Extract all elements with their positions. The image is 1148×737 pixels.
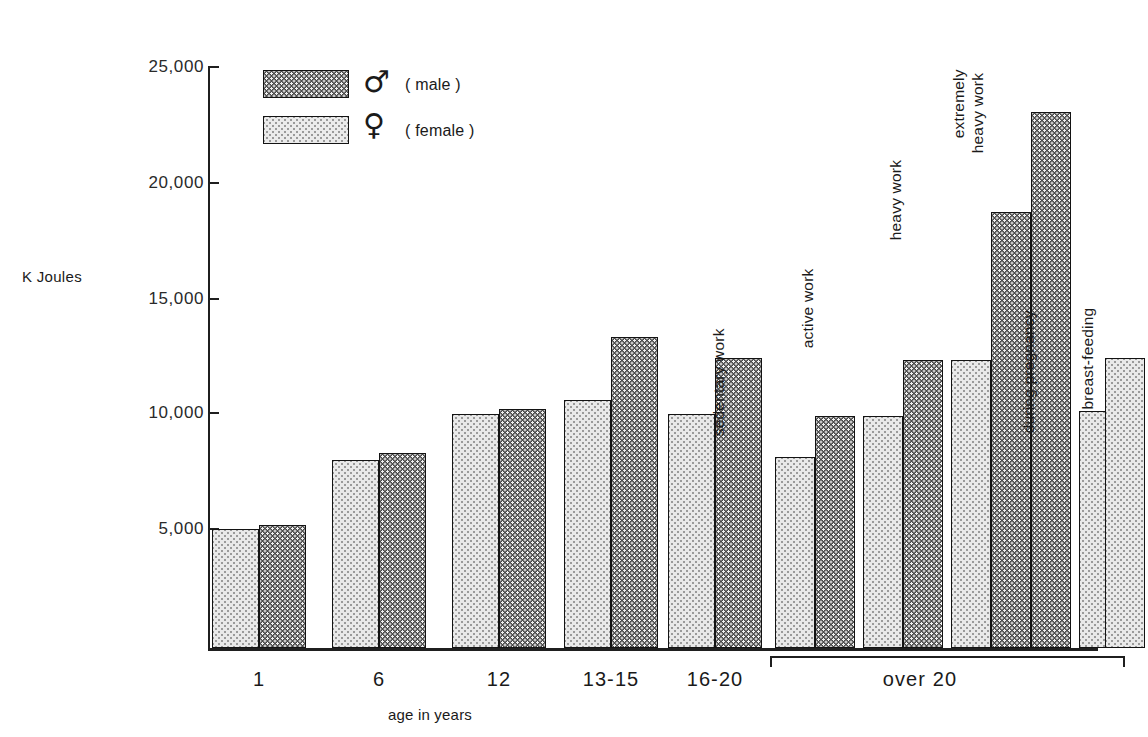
bar-age1-female — [212, 529, 259, 648]
annotation-extremely-heavy-line2: heavy work — [969, 73, 987, 153]
y-tick-label-5000: 5,000 — [84, 519, 204, 539]
legend-swatch-male — [263, 70, 349, 98]
group-label-age-16-20: 16-20 — [665, 668, 765, 691]
legend-swatch-female — [263, 116, 349, 144]
bar-over20-active-female — [863, 416, 903, 648]
group-label-age-6: 6 — [339, 668, 419, 691]
annotation-sedentary-work: sedentary work — [710, 328, 728, 436]
group-label-age-12: 12 — [459, 668, 539, 691]
bar-age12-female — [452, 414, 499, 648]
bar-over20-breastfeeding-female — [1105, 358, 1145, 648]
y-tick-20000 — [208, 182, 219, 184]
y-axis-title: K Joules — [22, 268, 82, 285]
annotation-extremely-heavy-line1: extremely — [950, 69, 968, 138]
y-tick-25000 — [208, 66, 219, 68]
y-tick-15000 — [208, 298, 219, 300]
annotation-during-pregnancy: during pregnancy — [1020, 310, 1038, 433]
bar-age12-male — [499, 409, 546, 648]
group-label-over-20: over 20 — [860, 668, 980, 691]
bar-age16-20-female — [668, 414, 715, 648]
bar-age13-15-male — [611, 337, 658, 648]
bar-over20-sedentary-male — [815, 416, 855, 648]
y-tick-label-20000: 20,000 — [84, 173, 204, 193]
bar-chart: 25,000 20,000 15,000 10,000 5,000 K Joul… — [0, 0, 1148, 737]
x-axis-line — [208, 648, 1098, 651]
bar-over20-active-male — [903, 360, 943, 648]
legend-label-male: ( male ) — [405, 76, 461, 94]
y-tick-label-15000: 15,000 — [84, 289, 204, 309]
group-label-age-1: 1 — [219, 668, 299, 691]
bar-age13-15-female — [564, 400, 611, 648]
legend-label-female: ( female ) — [405, 122, 475, 140]
y-tick-10000 — [208, 412, 219, 414]
annotation-heavy-work: heavy work — [887, 160, 905, 240]
bar-age6-male — [379, 453, 426, 648]
bar-age6-female — [332, 460, 379, 648]
y-axis-line — [208, 66, 210, 650]
y-tick-label-25000: 25,000 — [84, 57, 204, 77]
over-20-bracket — [770, 656, 1125, 667]
x-axis-title: age in years — [330, 706, 530, 723]
bar-age1-male — [259, 525, 306, 648]
annotation-active-work: active work — [799, 269, 817, 349]
female-symbol-icon: ♀ — [363, 110, 385, 140]
bar-over20-sedentary-female — [775, 457, 815, 648]
bar-over20-heavy-female — [951, 360, 991, 648]
male-symbol-icon: ♂ — [363, 67, 390, 97]
group-label-age-13-15: 13-15 — [561, 668, 661, 691]
y-tick-label-10000: 10,000 — [84, 403, 204, 423]
